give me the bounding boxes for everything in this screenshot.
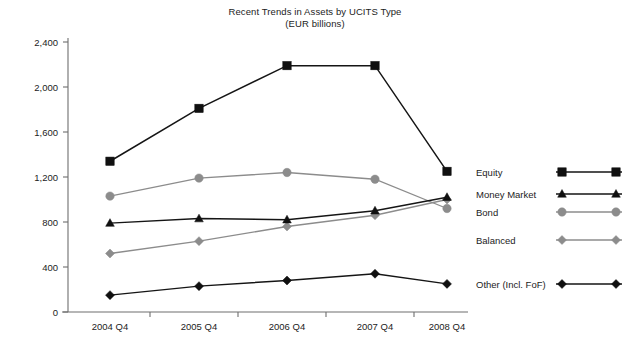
data-point-marker (612, 280, 621, 289)
x-axis-tick-label: 2005 Q4 (159, 321, 239, 332)
y-axis-tick-label: 2,000 (14, 82, 58, 93)
y-axis-tick-label: 1,600 (14, 127, 58, 138)
data-point-marker (195, 282, 204, 291)
data-point-marker (558, 236, 567, 245)
x-axis-tick-label: 2007 Q4 (335, 321, 415, 332)
data-point-marker (558, 168, 566, 176)
data-point-marker (195, 104, 203, 112)
data-point-marker (612, 236, 621, 245)
data-point-marker (443, 204, 451, 212)
data-point-marker (195, 174, 203, 182)
data-point-marker (283, 61, 291, 69)
data-point-marker (443, 279, 452, 288)
data-point-marker (371, 269, 380, 278)
y-axis-tick-label: 1,200 (14, 172, 58, 183)
data-point-marker (443, 167, 451, 175)
data-point-marker (106, 192, 114, 200)
data-point-marker (612, 208, 620, 216)
data-point-marker (443, 193, 452, 201)
series-line (110, 173, 447, 209)
series-balanced (106, 195, 452, 258)
series-line (110, 200, 447, 254)
legend-item-label[interactable]: Equity (476, 167, 502, 178)
x-axis-tick-label: 2006 Q4 (247, 321, 327, 332)
y-axis-tick-label: 0 (14, 307, 58, 318)
legend-item-label[interactable]: Other (Incl. FoF) (476, 279, 546, 290)
y-axis-tick-label: 400 (14, 262, 58, 273)
data-point-marker (371, 175, 379, 183)
data-point-marker (106, 291, 115, 300)
data-point-marker (106, 157, 114, 165)
data-point-marker (612, 168, 620, 176)
plot-area: 04008001,2001,6002,0002,4002004 Q42005 Q… (0, 0, 630, 345)
data-point-marker (195, 237, 204, 246)
data-point-marker (371, 61, 379, 69)
legend-item-label[interactable]: Balanced (476, 235, 516, 246)
y-axis-tick-label: 800 (14, 217, 58, 228)
data-point-marker (558, 208, 566, 216)
y-axis-tick-label: 2,400 (14, 37, 58, 48)
series-line (110, 66, 447, 172)
data-point-marker (283, 168, 291, 176)
data-point-marker (106, 249, 115, 258)
series-other-incl-fof (106, 269, 452, 299)
legend-item-label[interactable]: Bond (476, 207, 498, 218)
legend (556, 168, 622, 289)
x-axis-tick-label: 2008 Q4 (407, 321, 487, 332)
data-point-marker (558, 280, 567, 289)
axes (62, 38, 468, 317)
data-point-marker (283, 222, 292, 231)
x-axis-tick-label: 2004 Q4 (70, 321, 150, 332)
series-line (110, 274, 447, 295)
chart-canvas (0, 0, 630, 345)
chart-figure: Recent Trends in Assets by UCITS Type (E… (0, 0, 630, 345)
legend-item-label[interactable]: Money Market (476, 189, 536, 200)
data-point-marker (283, 276, 292, 285)
series-equity (106, 61, 451, 175)
